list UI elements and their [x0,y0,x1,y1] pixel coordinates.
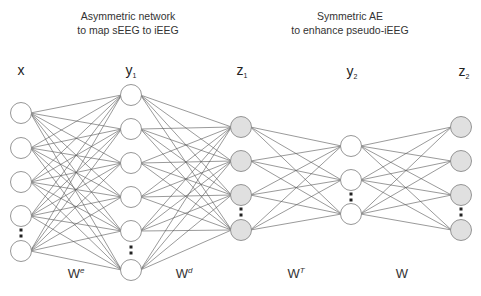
edge-y2-3-to-z2-4 [360,214,451,230]
layer-label-y2: y2 [347,63,358,80]
edge-x-5-to-y1-2 [30,129,121,251]
edge-y2-1-to-z2-1 [360,127,451,146]
ellipsis-dot-z2-2 [460,214,463,217]
weight-label-transpose: WT [287,266,305,281]
node-y1-5 [121,221,142,242]
node-y2-3 [341,204,362,225]
edge-z1-4-to-y2-3 [250,214,341,230]
edge-y1-6-to-z1-1 [140,127,231,270]
layer-label-z2: z2 [459,63,470,80]
edge-y1-2-to-z1-4 [140,129,231,230]
ellipsis-dot-z2-1 [460,208,463,211]
node-y1-4 [121,187,142,208]
node-x-2 [11,138,32,159]
edge-x-3-to-y1-6 [30,182,121,270]
edge-y1-5-to-z1-4 [140,230,231,231]
node-y1-2 [121,119,142,140]
edge-y1-4-to-z1-1 [140,127,231,197]
node-z2-1 [451,117,472,138]
node-x-5 [11,241,32,262]
ellipsis-dot-x-2 [20,235,23,238]
ellipsis-dot-y1-2 [130,252,133,255]
ellipsis-dot-x-1 [20,229,23,232]
edge-x-1-to-y1-6 [30,113,121,270]
edge-x-1-to-y1-1 [30,95,121,113]
ellipsis-dot-y1-1 [130,246,133,249]
ellipsis-dot-y2-1 [350,193,353,196]
symmetric-title-line1: Symmetric AE [317,10,383,22]
node-z2-4 [451,220,472,241]
layer-label-y1: y1 [126,62,137,79]
weight-label-decoder: Wd [176,266,193,281]
node-y1-3 [121,153,142,174]
edge-y1-6-to-z1-4 [140,230,231,270]
node-z1-3 [231,185,252,206]
neural-network-diagram: Asymmetric network to map sEEG to iEEG S… [0,0,481,296]
ellipsis-dot-z1-2 [240,214,243,217]
node-z1-2 [231,151,252,172]
edge-z1-3-to-y2-3 [250,195,341,214]
edge-x-2-to-y1-1 [30,95,121,148]
node-y1-1 [121,85,142,106]
edge-y1-2-to-z1-1 [140,127,231,129]
edge-z1-1-to-y2-1 [250,127,341,146]
layer-label-z1: z1 [237,62,248,79]
node-z1-4 [231,220,252,241]
node-y1-6 [121,260,142,281]
node-y2-2 [341,170,362,191]
symmetric-title-line2: to enhance pseudo-iEEG [291,24,408,36]
nodes-group [11,85,472,281]
edge-x-1-to-y1-2 [30,113,121,129]
edge-x-5-to-y1-3 [30,163,121,251]
edge-y1-5-to-z1-2 [140,161,231,231]
edge-x-3-to-y1-1 [30,95,121,182]
node-y2-1 [341,136,362,157]
edge-y1-5-to-z1-3 [140,195,231,231]
edge-y2-3-to-z2-3 [360,195,451,214]
edge-y1-1-to-z1-1 [140,95,231,127]
edge-y1-3-to-z1-1 [140,127,231,163]
edge-x-5-to-y1-1 [30,95,121,251]
edge-x-2-to-y1-6 [30,148,121,270]
node-z2-3 [451,185,472,206]
asymmetric-title-line1: Asymmetric network [81,10,176,22]
weight-label-w: W [396,266,409,281]
node-z1-1 [231,117,252,138]
node-x-4 [11,206,32,227]
edge-x-5-to-y1-5 [30,231,121,251]
weight-label-encoder: We [68,266,85,281]
edge-y1-4-to-z1-4 [140,197,231,230]
edge-y1-6-to-z1-3 [140,195,231,270]
layer-label-x: x [18,62,25,78]
ellipsis-dot-z1-1 [240,208,243,211]
ellipsis-dot-y2-2 [350,199,353,202]
asymmetric-title-line2: to map sEEG to iEEG [77,24,179,36]
edge-y2-3-to-z2-1 [360,127,451,214]
node-z2-2 [451,151,472,172]
node-x-3 [11,172,32,193]
node-x-1 [11,103,32,124]
